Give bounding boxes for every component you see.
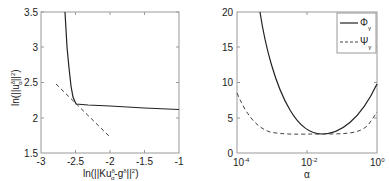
left-xtick-label: -2: [106, 156, 115, 167]
left-xtick-label: -1: [175, 156, 184, 167]
legend: Φγ Ψγ: [337, 13, 376, 53]
left-xtick-label: -1.5: [136, 156, 154, 167]
left-ytick-label: 2: [32, 113, 38, 124]
left-xtick-label: -2.5: [67, 156, 85, 167]
figure: 3.5 3 2.5 2 1.5 -3 -2.5 -2 -1.5 -1 ln(||…: [0, 0, 389, 181]
left-axes-box: [41, 12, 179, 153]
right-x-axis-label: α: [304, 169, 310, 180]
left-ytick-label: 3: [32, 42, 38, 53]
right-xtick-label: 10-2: [301, 157, 318, 168]
right-ytick-label: 10: [222, 77, 234, 88]
right-xtick-label: 100: [370, 157, 385, 168]
right-ytick-label: 20: [222, 7, 234, 18]
right-plot: 20 15 10 5 0 10-4 10-2 100 α Φγ Ψγ: [222, 7, 385, 180]
right-ytick-label: 15: [222, 42, 234, 53]
left-x-axis-label: ln(||Kuδα-gδ||2): [83, 168, 139, 181]
left-xtick-label: -3: [37, 156, 46, 167]
left-ytick-label: 3.5: [24, 7, 38, 18]
left-plot: 3.5 3 2.5 2 1.5 -3 -2.5 -2 -1.5 -1 ln(||…: [10, 7, 184, 181]
right-xtick-label: 10-4: [233, 157, 250, 168]
left-ytick-label: 2.5: [24, 77, 38, 88]
left-y-axis-label: ln(||uδα||2): [10, 69, 23, 106]
right-ytick-label: 5: [227, 113, 233, 124]
